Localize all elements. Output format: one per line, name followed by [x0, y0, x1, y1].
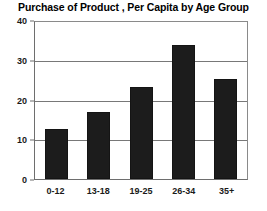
x-tick-label-26-34: 26-34	[162, 186, 205, 196]
bar-slot-19-25	[120, 22, 162, 179]
bar-0-12	[45, 129, 68, 179]
bar-chart: Purchase of Product , Per Capita by Age …	[0, 0, 267, 211]
y-axis: 40 30 20 10 0	[0, 0, 34, 211]
y-tick-label-20: 20	[17, 96, 27, 106]
bar-26-34	[172, 45, 195, 179]
bar-slot-0-12	[35, 22, 77, 179]
y-tick-label-0: 0	[22, 175, 27, 185]
bar-slot-13-18	[77, 22, 119, 179]
bar-13-18	[87, 112, 110, 179]
chart-title: Purchase of Product , Per Capita by Age …	[0, 1, 267, 13]
y-tick-label-30: 30	[17, 56, 27, 66]
bar-slot-26-34	[162, 22, 204, 179]
y-tick-label-10: 10	[17, 135, 27, 145]
x-tick-label-0-12: 0-12	[34, 186, 77, 196]
bar-35plus	[214, 79, 237, 179]
x-tick-label-19-25: 19-25	[120, 186, 163, 196]
plot-area	[34, 21, 248, 180]
bar-19-25	[130, 87, 153, 179]
y-tick-label-40: 40	[17, 16, 27, 26]
x-tick-label-13-18: 13-18	[77, 186, 120, 196]
x-axis: 0-12 13-18 19-25 26-34 35+	[34, 186, 248, 196]
bar-slot-35plus	[205, 22, 247, 179]
x-tick-label-35plus: 35+	[205, 186, 248, 196]
bars-layer	[35, 22, 247, 179]
